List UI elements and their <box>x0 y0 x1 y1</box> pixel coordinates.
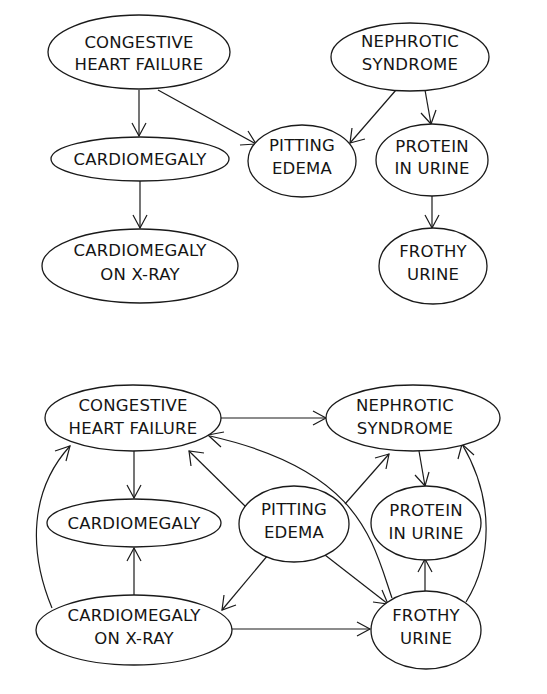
node-protein-in-urine: PROTEIN IN URINE <box>371 486 481 560</box>
edge-pitting-to-frothy <box>325 555 388 604</box>
node-cardiomegaly-on-xray: CARDIOMEGALY ON X-RAY <box>42 229 238 303</box>
edge-chf-to-pitting-edema <box>158 90 256 144</box>
node-pitting-edema: PITTING EDEMA <box>248 125 356 197</box>
node-cardiomegaly: CARDIOMEGALY <box>51 137 229 181</box>
svg-text:CONGESTIVE: CONGESTIVE <box>84 33 193 52</box>
node-cardiomegaly: CARDIOMEGALY <box>47 499 221 547</box>
node-frothy-urine: FROTHY URINE <box>379 228 487 304</box>
svg-text:FROTHY: FROTHY <box>399 242 467 261</box>
edge-nephrotic-to-pitting-edema <box>350 90 396 143</box>
edge-pitting-to-nephrotic <box>345 454 389 504</box>
svg-text:NEPHROTIC: NEPHROTIC <box>356 396 454 415</box>
svg-text:URINE: URINE <box>400 629 452 648</box>
bottom-diagram: CONGESTIVE HEART FAILURE NEPHROTIC SYNDR… <box>36 385 500 669</box>
arrowhead-icon <box>415 472 429 486</box>
svg-text:CARDIOMEGALY: CARDIOMEGALY <box>73 241 207 260</box>
node-congestive-heart-failure: CONGESTIVE HEART FAILURE <box>48 15 230 89</box>
svg-text:URINE: URINE <box>407 265 459 284</box>
svg-text:NEPHROTIC: NEPHROTIC <box>361 32 459 51</box>
svg-text:HEART FAILURE: HEART FAILURE <box>69 419 198 438</box>
edge-pitting-to-xray <box>222 555 268 610</box>
svg-text:CARDIOMEGALY: CARDIOMEGALY <box>67 606 201 625</box>
causal-diagrams: CONGESTIVE HEART FAILURE NEPHROTIC SYNDR… <box>0 0 547 694</box>
svg-text:ON X-RAY: ON X-RAY <box>94 629 174 648</box>
svg-text:PROTEIN: PROTEIN <box>395 137 469 156</box>
svg-text:ON X-RAY: ON X-RAY <box>100 265 180 284</box>
svg-text:FROTHY: FROTHY <box>392 606 460 625</box>
node-pitting-edema: PITTING EDEMA <box>239 486 349 562</box>
node-nephrotic-syndrome: NEPHROTIC SYNDROME <box>326 385 500 451</box>
node-protein-in-urine: PROTEIN IN URINE <box>376 124 488 196</box>
svg-text:CARDIOMEGALY: CARDIOMEGALY <box>73 150 207 169</box>
svg-text:SYNDROME: SYNDROME <box>362 55 458 74</box>
svg-text:EDEMA: EDEMA <box>264 523 325 542</box>
svg-text:CARDIOMEGALY: CARDIOMEGALY <box>67 514 201 533</box>
node-congestive-heart-failure: CONGESTIVE HEART FAILURE <box>45 385 221 451</box>
svg-text:CONGESTIVE: CONGESTIVE <box>78 396 187 415</box>
svg-text:IN URINE: IN URINE <box>388 524 463 543</box>
svg-text:SYNDROME: SYNDROME <box>357 419 453 438</box>
edge-pitting-to-chf <box>189 451 246 507</box>
svg-text:EDEMA: EDEMA <box>272 159 333 178</box>
svg-text:PITTING: PITTING <box>261 500 327 519</box>
top-diagram: CONGESTIVE HEART FAILURE NEPHROTIC SYNDR… <box>42 15 489 304</box>
node-cardiomegaly-on-xray: CARDIOMEGALY ON X-RAY <box>36 595 232 665</box>
svg-text:IN URINE: IN URINE <box>394 159 469 178</box>
svg-text:PROTEIN: PROTEIN <box>389 501 463 520</box>
node-nephrotic-syndrome: NEPHROTIC SYNDROME <box>331 23 489 91</box>
svg-text:HEART FAILURE: HEART FAILURE <box>75 55 204 74</box>
node-frothy-urine: FROTHY URINE <box>371 591 481 669</box>
svg-text:PITTING: PITTING <box>269 136 335 155</box>
